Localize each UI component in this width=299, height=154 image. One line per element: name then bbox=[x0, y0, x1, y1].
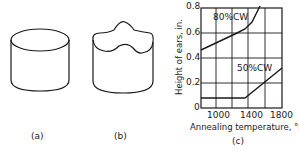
cup-eared-illustration bbox=[93, 22, 153, 93]
x-tick-1400: 1400 bbox=[240, 110, 263, 120]
x-tick-1000: 1000 bbox=[207, 110, 230, 120]
chart-grid bbox=[201, 8, 282, 108]
x-axis-label: Annealing temperature, °F bbox=[190, 122, 299, 132]
x-tick-1800: 1800 bbox=[270, 110, 293, 120]
series-label-50cw: 50%CW bbox=[237, 63, 272, 73]
y-tick-0.8: 0.8 bbox=[186, 1, 200, 11]
y-tick-0: 0 bbox=[194, 102, 200, 112]
y-axis-label: Height of ears, in. bbox=[174, 12, 184, 102]
y-tick-0.6: 0.6 bbox=[186, 27, 200, 37]
caption-a: (a) bbox=[31, 131, 44, 141]
caption-b: (b) bbox=[114, 131, 127, 141]
caption-c: (c) bbox=[232, 136, 244, 146]
y-tick-0.4: 0.4 bbox=[186, 52, 200, 62]
series-label-80cw: 80%CW bbox=[213, 12, 248, 22]
y-tick-0.2: 0.2 bbox=[186, 77, 200, 87]
cup-plain-illustration bbox=[11, 29, 69, 91]
